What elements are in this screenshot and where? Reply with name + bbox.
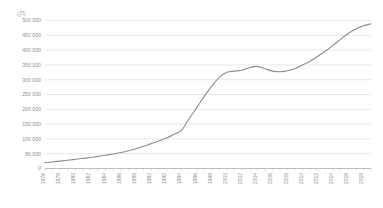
x-axis-tick-label: 1996 (193, 173, 198, 184)
y-axis-tick-label: 400 000 (22, 47, 41, 53)
x-axis-tick-label: 1988 (132, 173, 137, 184)
y-axis-tick-labels: 050 000100 000150 000200 000250 000300 0… (22, 17, 41, 171)
y-axis-tick-label: 250 000 (22, 91, 41, 97)
x-axis-tick-label: 2008 (284, 173, 289, 184)
x-axis-tick-label: 1976 (41, 173, 46, 184)
x-axis-tick-label: 1984 (102, 173, 107, 184)
x-axis-tick-label: 2018 (359, 173, 364, 184)
x-axis-tick-label: 1980 (71, 173, 76, 184)
x-axis-tick-label: 2002 (238, 173, 243, 184)
y-axis-tick-label: 450 000 (22, 32, 41, 38)
y-axis-tick-label: 300 000 (22, 77, 41, 83)
gridlines (45, 21, 371, 169)
x-axis (45, 169, 371, 171)
x-axis-tick-label: 1998 (208, 173, 213, 184)
x-axis-tick-label: 1992 (162, 173, 167, 184)
x-axis-tick-label: 2004 (253, 173, 258, 184)
x-axis-tick-labels: 1976197819801982198419861988199019921994… (41, 173, 364, 184)
x-axis-tick-label: 1986 (117, 173, 122, 184)
x-axis-tick-label: 2014 (329, 173, 334, 184)
chart-canvas: 050 000100 000150 000200 000250 000300 0… (0, 0, 383, 208)
y-axis-tick-label: 100 000 (22, 136, 41, 142)
y-axis-tick-label: 150 000 (22, 121, 41, 127)
x-axis-tick-label: 2000 (223, 173, 228, 184)
x-axis-tick-label: 1994 (177, 173, 182, 184)
x-axis-tick-label: 2010 (299, 173, 304, 184)
x-axis-tick-label: 1978 (56, 173, 61, 184)
x-axis-tick-label: 1982 (86, 173, 91, 184)
x-axis-tick-label: 2012 (314, 173, 319, 184)
x-axis-tick-label: 2006 (268, 173, 273, 184)
x-axis-tick-label: 1990 (147, 173, 152, 184)
y-axis-tick-label: 0 (38, 165, 41, 171)
data-series-line (45, 24, 371, 163)
y-axis-tick-label: 50 000 (25, 151, 41, 157)
y-axis-tick-label: 200 000 (22, 106, 41, 112)
x-axis-tick-label: 2016 (344, 173, 349, 184)
series-line (45, 24, 371, 163)
line-chart: (戸) 050 000100 000150 000200 000250 0003… (0, 0, 383, 208)
y-axis-tick-label: 350 000 (22, 62, 41, 68)
y-axis-tick-label: 500 000 (22, 17, 41, 23)
